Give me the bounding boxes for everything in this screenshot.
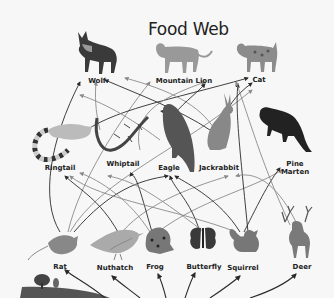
diagram-title: Food Web [148,19,248,39]
label-deer: Deer [293,263,312,271]
label-eagle: Eagle [158,164,180,172]
jackrabbit-illustration [207,93,233,150]
eagle-illustration [160,104,195,172]
squirrel-illustration [230,229,260,252]
label-wolf: Wolf [88,77,106,85]
deer-illustration [282,206,312,258]
cat-illustration [237,42,277,72]
label-pine-marten: Pine Marten [281,160,309,176]
label-whiptail: Whiptail [107,160,140,168]
label-frog: Frog [146,263,164,271]
landscape-illustration [20,274,110,298]
label-rat: Rat [53,263,66,271]
frog-illustration [146,228,174,254]
rat-illustration [28,235,78,260]
label-ringtail: Ringtail [45,164,76,172]
butterfly-illustration [190,227,216,249]
food-web-diagram: Food Web Wolf Mountain Lion Cat Ringtail… [0,0,334,298]
pine-marten-illustration [259,107,312,152]
label-cat: Cat [252,76,265,84]
ringtail-illustration [35,124,92,160]
label-butterfly: Butterfly [187,263,222,271]
arrows-from-producers [65,270,296,298]
label-nuthatch: Nuthatch [97,264,133,272]
label-mountain-lion: Mountain Lion [156,77,212,85]
nuthatch-illustration [90,230,144,260]
label-squirrel: Squirrel [227,264,259,272]
mountain-lion-illustration [156,43,212,73]
wolf-illustration [78,31,117,74]
whiptail-illustration [96,117,148,150]
label-jackrabbit: Jackrabbit [199,164,239,172]
food-web-illustration [0,0,334,298]
